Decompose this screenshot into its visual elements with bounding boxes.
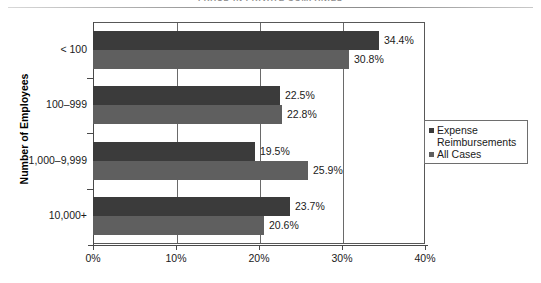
bar [93, 31, 379, 50]
legend-label: Expense Reimbursements [437, 124, 524, 148]
x-axis-tick [425, 245, 426, 250]
x-axis-tick [342, 245, 343, 250]
y-axis-tick [87, 189, 93, 190]
legend-swatch-icon [429, 128, 434, 133]
bar [93, 50, 349, 69]
y-axis-category-label: 100–999 [3, 98, 87, 110]
x-axis-tick-label: 20% [234, 252, 284, 264]
y-axis-tick [87, 133, 93, 134]
legend-item: Expense Reimbursements [429, 124, 524, 148]
legend-label: All Cases [437, 148, 481, 160]
legend-swatch-icon [429, 152, 434, 157]
bar-value-label: 34.4% [384, 31, 414, 50]
y-axis-tick [87, 78, 93, 79]
bar-value-label: 25.9% [313, 161, 343, 180]
bar-value-label: 22.8% [287, 105, 317, 124]
legend-item: All Cases [429, 148, 524, 160]
bar [93, 161, 308, 180]
x-axis-tick-label: 0% [68, 252, 118, 264]
bar [93, 86, 280, 105]
x-axis-tick [176, 245, 177, 250]
y-axis-title: Number of Employees [18, 64, 30, 194]
y-axis-category-label: < 100 [3, 43, 87, 55]
x-axis-tick-label: 40% [400, 252, 450, 264]
x-axis-tick [259, 245, 260, 250]
bar [93, 197, 290, 216]
page-title: FRAUD IN PRIVATE COMPANIES [0, 0, 541, 3]
bar [93, 216, 264, 235]
header-divider [8, 7, 533, 8]
x-axis-tick-label: 10% [151, 252, 201, 264]
bar [93, 142, 255, 161]
x-axis-line [88, 245, 428, 246]
y-axis-category-label: 10,000+ [3, 209, 87, 221]
bar-value-label: 23.7% [295, 197, 325, 216]
bar-value-label: 30.8% [354, 50, 384, 69]
chart-legend: Expense Reimbursements All Cases [424, 120, 528, 164]
x-axis-tick [93, 245, 94, 250]
bar [93, 105, 282, 124]
x-axis-tick-label: 30% [317, 252, 367, 264]
bar-value-label: 22.5% [285, 86, 315, 105]
y-axis-category-label: 1,000–9,999 [3, 154, 87, 166]
bar-value-label: 20.6% [269, 216, 299, 235]
bar-value-label: 19.5% [260, 142, 290, 161]
